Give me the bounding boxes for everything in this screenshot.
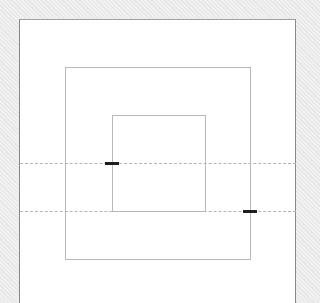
guide-line-upper xyxy=(20,163,296,164)
marker-middle-right[interactable] xyxy=(243,210,257,213)
marker-inner-left[interactable] xyxy=(105,162,119,165)
